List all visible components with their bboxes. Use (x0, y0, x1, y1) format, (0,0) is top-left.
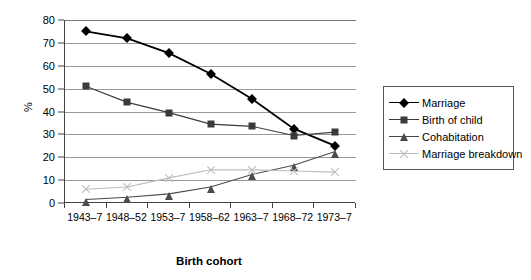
y-axis-title: % (22, 102, 34, 112)
y-tick-label: 40 (43, 106, 55, 118)
x-tick-mark (230, 203, 231, 208)
square-marker (207, 121, 214, 128)
legend-item[interactable]: Cohabitation (389, 128, 507, 145)
legend-swatch (389, 113, 419, 127)
triangle-marker (123, 195, 131, 203)
y-tick-label: 50 (43, 83, 55, 95)
cross-marker (80, 184, 91, 195)
x-tick-mark (147, 203, 148, 208)
y-tick-label: 0 (49, 197, 55, 209)
legend-swatch (389, 147, 419, 161)
square-marker (249, 123, 256, 130)
square-marker (82, 83, 89, 90)
series-lines (65, 20, 356, 203)
chart-figure: 01020304050607080 % 1943–71948–521953–71… (0, 0, 531, 280)
x-tick-mark (64, 203, 65, 208)
legend-label: Marriage breakdown (419, 148, 522, 160)
y-tick-label: 10 (43, 174, 55, 186)
diamond-marker (399, 98, 409, 108)
x-tick-label: 1963–7 (234, 211, 269, 223)
square-marker (332, 129, 339, 136)
x-tick-label: 1958–62 (189, 211, 230, 223)
legend-item[interactable]: Birth of child (389, 111, 507, 128)
cross-marker (330, 167, 341, 178)
chart-legend: MarriageBirth of childCohabitationMarria… (383, 86, 514, 170)
legend-label: Birth of child (419, 114, 483, 126)
cross-marker (288, 165, 299, 176)
x-tick-mark (272, 203, 273, 208)
x-tick-mark (355, 203, 356, 208)
triangle-marker (207, 185, 215, 193)
x-tick-mark (189, 203, 190, 208)
square-marker (165, 109, 172, 116)
legend-item[interactable]: Marriage (389, 94, 507, 111)
triangle-marker (82, 198, 90, 206)
cross-marker (205, 164, 216, 175)
x-tick-mark (313, 203, 314, 208)
cross-marker (122, 181, 133, 192)
y-tick-label: 70 (43, 37, 55, 49)
y-tick-label: 20 (43, 151, 55, 163)
legend-item[interactable]: Marriage breakdown (389, 145, 507, 162)
square-marker (290, 132, 297, 139)
legend-label: Marriage (419, 97, 465, 109)
square-marker (124, 99, 131, 106)
cross-marker (163, 172, 174, 183)
y-tick-label: 60 (43, 60, 55, 72)
x-tick-label: 1973–7 (317, 211, 352, 223)
cross-marker (247, 164, 258, 175)
x-tick-label: 1953–7 (150, 211, 185, 223)
y-tick-label: 80 (43, 14, 55, 26)
legend-swatch (389, 130, 419, 144)
triangle-marker (400, 133, 408, 141)
legend-swatch (389, 96, 419, 110)
y-tick-label: 30 (43, 128, 55, 140)
triangle-marker (331, 150, 339, 158)
square-marker (401, 116, 408, 123)
x-tick-label: 1948–52 (106, 211, 147, 223)
x-tick-label: 1968–72 (272, 211, 313, 223)
x-axis-title: Birth cohort (176, 255, 242, 267)
legend-label: Cohabitation (419, 131, 484, 143)
plot-area (64, 20, 355, 203)
cross-marker (399, 148, 410, 159)
x-tick-mark (106, 203, 107, 208)
x-tick-label: 1943–7 (67, 211, 102, 223)
triangle-marker (165, 192, 173, 200)
